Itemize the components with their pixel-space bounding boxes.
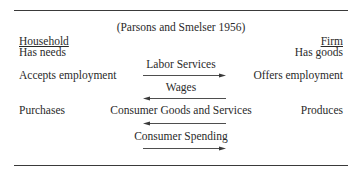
flow-label-consumer-spending: Consumer Spending [0,130,362,143]
top-rule [14,10,348,11]
left-arrow-icon [143,95,226,102]
right-arrow-icon [143,72,226,79]
citation: (Parsons and Smelser 1956) [0,21,362,34]
left-arrow-icon [143,120,226,127]
bottom-rule [14,165,348,166]
flow-label-wages: Wages [0,81,362,94]
firm-produces: Produces [301,104,343,117]
right-arrow-icon [143,145,226,152]
